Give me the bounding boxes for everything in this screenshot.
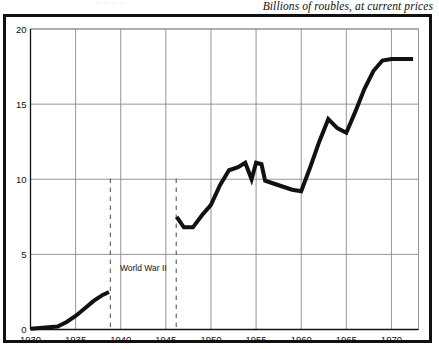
x-axis-tick-label: 1935 [65, 334, 86, 345]
war-period-annotation-label: World War II [120, 263, 167, 273]
x-axis-tick-label: 1955 [246, 334, 267, 345]
x-axis-tick-label: 1960 [291, 334, 312, 345]
x-axis-tick-label: 1950 [200, 334, 221, 345]
x-axis-tick-labels: 193019351940194519501955196019651970 [20, 334, 402, 345]
y-axis-tick-label: 20 [16, 24, 27, 35]
x-axis-tick-label: 1970 [381, 334, 402, 345]
y-axis-tick-label: 0 [21, 324, 26, 335]
x-axis-tick-label: 1930 [20, 334, 41, 345]
x-axis-tick-label: 1940 [110, 334, 131, 345]
series-layer [31, 59, 414, 329]
chart-figure: ~ ~ ~ ~ Billions of roubles, at current … [0, 0, 439, 349]
y-axis-tick-label: 10 [16, 174, 27, 185]
y-axis-tick-label: 15 [16, 99, 27, 110]
y-axis-tick-label: 5 [21, 249, 26, 260]
data-series-line [177, 59, 413, 227]
data-series-line [31, 292, 110, 329]
line-chart: World War II 193019351940194519501955196… [0, 0, 439, 349]
y-axis-tick-labels: 05101520 [16, 24, 27, 336]
x-axis-tick-label: 1965 [336, 334, 357, 345]
x-axis-tick-label: 1945 [155, 334, 176, 345]
